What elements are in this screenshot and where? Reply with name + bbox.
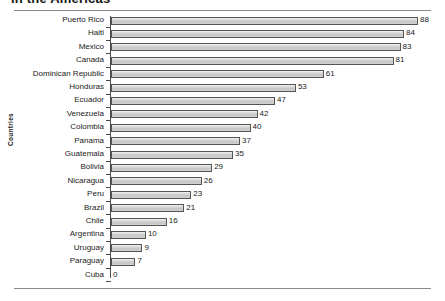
bar-row: Chile16	[0, 215, 445, 229]
bar-row: Paraguay7	[0, 255, 445, 269]
category-label: Bolivia	[0, 162, 104, 172]
bar-row: Cuba0	[0, 269, 445, 283]
bar	[111, 43, 401, 51]
bar-value-label: 37	[242, 136, 251, 146]
category-label: Haiti	[0, 28, 104, 38]
bar-value-label: 29	[214, 162, 223, 172]
bar-row: Argentina10	[0, 228, 445, 242]
bar-value-label: 23	[193, 189, 202, 199]
category-label: Colombia	[0, 122, 104, 132]
category-label: Nicaragua	[0, 176, 104, 186]
category-label: Paraguay	[0, 256, 104, 266]
bar-row: Colombia40	[0, 121, 445, 135]
bar-value-label: 42	[260, 109, 269, 119]
bar-value-label: 83	[403, 42, 412, 52]
bar	[111, 231, 146, 239]
bar	[111, 164, 212, 172]
bottom-divider	[14, 288, 431, 289]
category-label: Chile	[0, 216, 104, 226]
category-label: Cuba	[0, 270, 104, 280]
category-label: Panama	[0, 136, 104, 146]
category-label: Puerto Rico	[0, 15, 104, 25]
category-label: Canada	[0, 55, 104, 65]
bar	[111, 244, 142, 252]
bar	[111, 17, 418, 25]
chart-title-clip: in the Americas	[0, 0, 445, 6]
category-label: Argentina	[0, 229, 104, 239]
category-label: Guatemala	[0, 149, 104, 159]
bar	[111, 204, 184, 212]
axis-tick	[106, 281, 111, 282]
bar	[111, 124, 251, 132]
bar-value-label: 16	[169, 216, 178, 226]
bar-value-label: 81	[396, 55, 405, 65]
bar-row: Bolivia29	[0, 161, 445, 175]
category-label: Venezuela	[0, 109, 104, 119]
bar-value-label: 21	[186, 203, 195, 213]
bar-row: Peru23	[0, 188, 445, 202]
bar	[111, 137, 240, 145]
bar-row: Honduras53	[0, 81, 445, 95]
bar	[111, 84, 296, 92]
bar-row: Mexico83	[0, 41, 445, 55]
bar-row: Guatemala35	[0, 148, 445, 162]
bar-value-label: 26	[204, 176, 213, 186]
bar-row: Canada81	[0, 54, 445, 68]
bar-row: Puerto Rico88	[0, 14, 445, 28]
bar-row: Ecuador47	[0, 94, 445, 108]
bar-value-label: 9	[144, 243, 148, 253]
bar-row: Panama37	[0, 135, 445, 149]
bar-row: Uruguay9	[0, 242, 445, 256]
category-label: Brazil	[0, 203, 104, 213]
bar-value-label: 47	[277, 95, 286, 105]
bar-value-label: 53	[298, 82, 307, 92]
category-label: Ecuador	[0, 95, 104, 105]
bar-row: Brazil21	[0, 202, 445, 216]
bar	[111, 70, 324, 78]
bar	[111, 218, 167, 226]
bar	[111, 57, 394, 65]
chart-title: in the Americas	[11, 0, 110, 6]
category-label: Peru	[0, 189, 104, 199]
category-label: Uruguay	[0, 243, 104, 253]
bar-row: Dominican Republic61	[0, 68, 445, 82]
bar-chart: Countries Puerto Rico88Haiti84Mexico83Ca…	[0, 14, 445, 286]
bar-row: Haiti84	[0, 27, 445, 41]
bar	[111, 30, 404, 38]
bar	[111, 258, 135, 266]
bar-value-label: 40	[253, 122, 262, 132]
bar-value-label: 35	[235, 149, 244, 159]
bar	[111, 151, 233, 159]
category-label: Mexico	[0, 42, 104, 52]
bar-row: Nicaragua26	[0, 175, 445, 189]
bar	[111, 110, 258, 118]
bar-value-label: 7	[137, 256, 141, 266]
category-label: Honduras	[0, 82, 104, 92]
bar-value-label: 61	[326, 69, 335, 79]
bar	[111, 191, 191, 199]
bar-value-label: 88	[420, 15, 429, 25]
bar-row: Venezuela42	[0, 108, 445, 122]
bar-value-label: 0	[113, 270, 117, 280]
bar	[111, 177, 202, 185]
top-divider	[14, 10, 431, 11]
category-label: Dominican Republic	[0, 69, 104, 79]
bar-value-label: 10	[148, 229, 157, 239]
bar	[111, 97, 275, 105]
bar-value-label: 84	[406, 28, 415, 38]
